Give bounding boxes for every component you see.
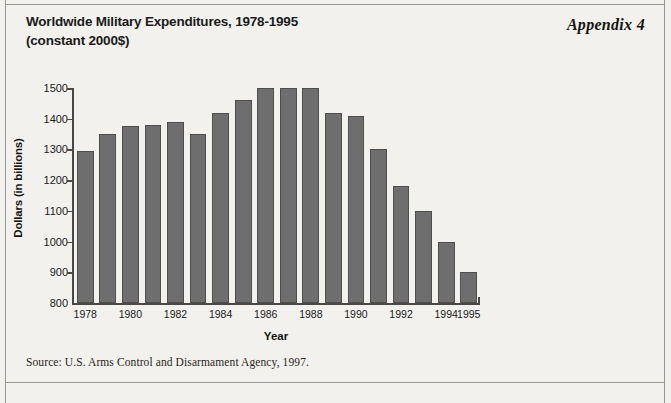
x-axis-tick-label: 1988 [299,308,322,320]
x-axis-line [72,303,480,305]
x-axis-tick-label: 1980 [119,308,142,320]
y-axis-tick-mark [67,272,73,274]
chart-title-line-1: Worldwide Military Expenditures, 1978-19… [26,12,426,31]
x-axis-tick-label: 1990 [344,308,367,320]
y-axis-tick-label: 1300 [44,143,68,155]
bar [190,134,207,303]
x-axis-tick-label: 1986 [254,308,277,320]
page-border-bottom [5,382,665,383]
y-axis-tick-label: 900 [50,266,68,278]
x-axis-tick-label: 1978 [74,308,97,320]
bar [393,186,410,303]
bar [122,126,139,303]
x-axis-tick-label: 1984 [209,308,232,320]
y-axis-tick-label: 800 [50,297,68,309]
chart-plot-area: Dollars (in billions) 800900100011001200… [0,78,671,338]
bar [325,113,342,303]
y-axis-tick-label: 1000 [44,236,68,248]
bar [235,100,252,303]
y-axis-tick-label: 1400 [44,113,68,125]
figure-page: Worldwide Military Expenditures, 1978-19… [0,0,671,403]
y-axis-tick-mark [67,149,73,151]
bar [438,242,455,303]
bar [77,151,94,303]
y-axis-tick-mark [67,211,73,213]
bar-series [74,88,480,303]
y-axis-tick-label: 1200 [44,174,68,186]
bar [415,211,432,303]
bar [280,88,297,303]
chart-axes [72,88,480,303]
bar [99,134,116,303]
appendix-label: Appendix 4 [567,16,645,34]
x-axis-title: Year [72,330,480,342]
bar [302,88,319,303]
chart-title-block: Worldwide Military Expenditures, 1978-19… [26,12,426,50]
bar [257,88,274,303]
x-axis-tick-label: 1994 [434,308,457,320]
y-axis-title: Dollars (in billions) [12,123,24,253]
bar [212,113,229,303]
chart-title-line-2: (constant 2000$) [26,31,426,50]
x-axis-tick-label: 1992 [389,308,412,320]
bar [348,116,365,303]
bar [145,125,162,303]
y-axis-tick-mark [67,119,73,121]
bar [167,122,184,303]
bar [370,149,387,303]
page-border-top [5,4,665,5]
y-axis-tick-label: 1100 [44,205,68,217]
source-note: Source: U.S. Arms Control and Disarmamen… [26,356,309,368]
x-axis-tick-label: 1995 [457,308,480,320]
y-axis-tick-label: 1500 [44,82,68,94]
x-axis-tick-labels: 1978198019821984198619881990199219941995 [72,308,480,324]
y-axis-tick-mark [67,242,73,244]
bar [460,272,477,303]
y-axis-tick-labels: 800900100011001200130014001500 [28,78,68,303]
y-axis-tick-mark [67,180,73,182]
y-axis-tick-mark [67,88,73,90]
x-axis-tick-label: 1982 [164,308,187,320]
